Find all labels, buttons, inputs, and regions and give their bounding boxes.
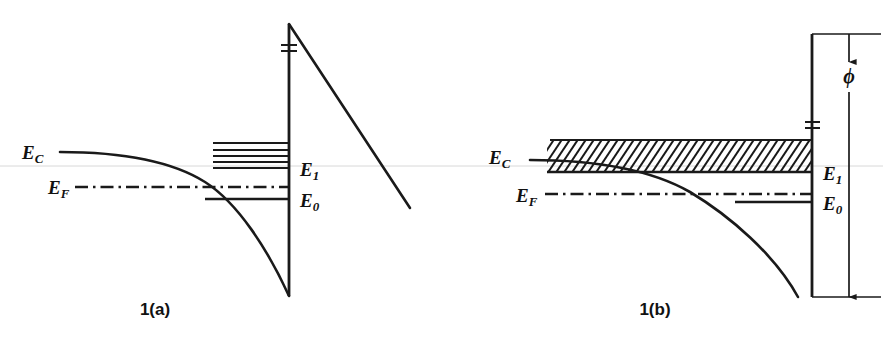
figure-background [0, 0, 883, 356]
phi-label: ϕ [843, 65, 855, 88]
figure-root: EC EF E1 E0 1(a) [0, 0, 883, 356]
energy-band-diagram-figure: EC EF E1 E0 1(a) [0, 0, 883, 356]
panel-a-caption: 1(a) [140, 300, 170, 319]
panel-b-caption: 1(b) [639, 300, 670, 319]
